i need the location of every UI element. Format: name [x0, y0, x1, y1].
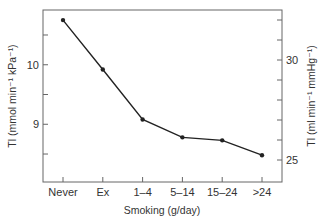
right-y-tick-label: 25: [286, 154, 298, 166]
x-tick-label: 5–14: [170, 186, 194, 198]
data-point: [140, 117, 144, 121]
right-y-axis-title: Tl (ml min⁻¹ mmHg⁻¹): [305, 45, 317, 146]
x-axis-title: Smoking (g/day): [124, 204, 200, 216]
x-tick-label: Ex: [96, 186, 109, 198]
data-point: [180, 135, 184, 139]
series-line: [63, 20, 262, 155]
plot-frame: [43, 10, 282, 182]
x-tick-label: >24: [253, 186, 272, 198]
x-tick-label: 1–4: [133, 186, 151, 198]
left-y-tick-label: 9: [33, 118, 39, 130]
right-y-axis: 2530: [277, 20, 298, 166]
x-tick-label: 15–24: [207, 186, 238, 198]
tl-vs-smoking-line-chart: 910 2530 NeverEx1–45–1415–24>24 Smoking …: [0, 0, 325, 222]
left-y-axis-title: Tl (mmol min⁻¹ kPa⁻¹): [6, 44, 18, 147]
data-point: [220, 138, 224, 142]
left-y-axis: 910: [27, 35, 48, 154]
data-point: [260, 153, 264, 157]
x-tick-label: Never: [48, 186, 78, 198]
x-axis: NeverEx1–45–1415–24>24: [48, 177, 271, 198]
data-point: [61, 18, 65, 22]
right-y-tick-label: 30: [286, 54, 298, 66]
data-point: [101, 67, 105, 71]
data-series: [61, 18, 264, 158]
left-y-tick-label: 10: [27, 59, 39, 71]
